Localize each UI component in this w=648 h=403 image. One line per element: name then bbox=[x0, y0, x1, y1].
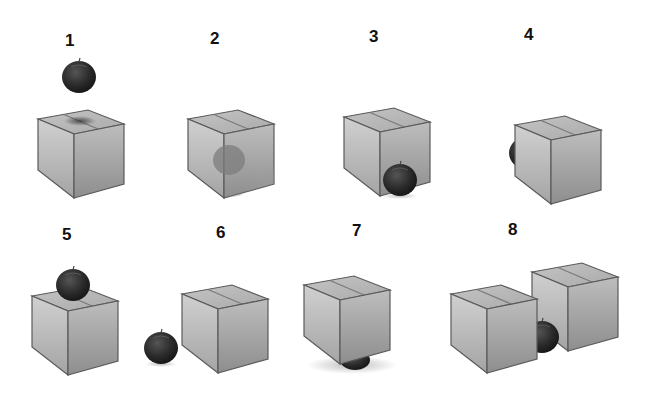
box-icon bbox=[182, 285, 268, 373]
panel-4: 4 bbox=[509, 25, 601, 204]
panel-3: 3 bbox=[344, 27, 430, 199]
panel-label: 5 bbox=[62, 225, 71, 244]
panel-8: 8 bbox=[451, 220, 618, 373]
panel-label: 6 bbox=[216, 223, 225, 242]
panel-label: 7 bbox=[352, 221, 361, 240]
apple-icon bbox=[144, 329, 178, 364]
panel-label: 2 bbox=[210, 29, 219, 48]
panel-label: 3 bbox=[369, 27, 378, 46]
panel-1: 1 bbox=[38, 31, 124, 198]
diagram-canvas: 1 2 3 4 5 6 7 bbox=[0, 0, 648, 403]
box-icon-left bbox=[451, 285, 537, 373]
panel-label: 4 bbox=[524, 25, 534, 44]
panel-label: 1 bbox=[65, 31, 74, 50]
box-icon bbox=[515, 116, 601, 204]
apple-icon bbox=[56, 266, 90, 301]
panel-6: 6 bbox=[144, 223, 268, 373]
box-icon bbox=[304, 276, 390, 364]
panel-label: 8 bbox=[508, 220, 517, 239]
panel-2: 2 bbox=[188, 29, 274, 198]
panel-5: 5 bbox=[32, 225, 118, 375]
panel-7: 7 bbox=[304, 221, 397, 374]
apple-shadow bbox=[64, 116, 96, 126]
apple-icon bbox=[62, 58, 96, 93]
apple-icon bbox=[213, 145, 245, 175]
